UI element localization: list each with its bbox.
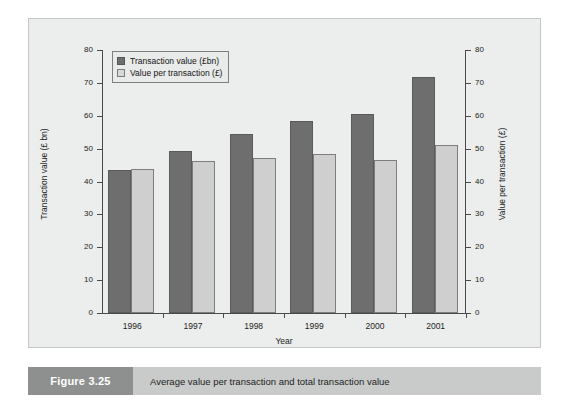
chart-panel: 01020304050607080 01020304050607080 1996…: [28, 18, 541, 348]
figure-caption-bar: Figure 3.25 Average value per transactio…: [28, 367, 541, 395]
y-axis-left-tick-label: 10: [69, 276, 93, 284]
y-axis-right-tick-label: 40: [475, 178, 499, 186]
y-axis-left-tick: [97, 313, 102, 314]
chart-legend: Transaction value (£bn) Value per transa…: [112, 51, 229, 83]
y-axis-left-tick-label: 50: [69, 145, 93, 153]
y-axis-left-tick-label: 60: [69, 112, 93, 120]
y-axis-right-tick-label: 60: [475, 112, 499, 120]
y-axis-right-tick: [466, 116, 471, 117]
y-axis-left-tick: [97, 149, 102, 150]
y-axis-right-tick-label: 10: [475, 276, 499, 284]
bar-value-per-transaction: [192, 161, 215, 313]
legend-label-transaction-value: Transaction value (£bn): [130, 56, 219, 66]
y-axis-right-tick: [466, 214, 471, 215]
bar-transaction-value: [412, 77, 435, 313]
y-axis-left-tick: [97, 116, 102, 117]
y-axis-right-tick: [466, 50, 471, 51]
y-axis-left-tick: [97, 214, 102, 215]
bar-transaction-value: [169, 151, 192, 313]
x-axis-tick: [466, 313, 467, 318]
bar-transaction-value: [230, 134, 253, 313]
y-axis-right-tick: [466, 280, 471, 281]
x-axis-tick: [284, 313, 285, 318]
x-axis-tick-label: 2001: [406, 321, 466, 331]
bar-transaction-value: [351, 114, 374, 313]
x-axis-tick-label: 1996: [102, 321, 162, 331]
plot-area: 01020304050607080 01020304050607080 1996…: [29, 19, 540, 347]
bar-value-per-transaction: [435, 145, 458, 313]
bar-transaction-value: [108, 170, 131, 313]
bar-value-per-transaction: [131, 169, 154, 313]
legend-swatch-light-icon: [117, 69, 125, 77]
y-axis-left-tick: [97, 50, 102, 51]
y-axis-right-title: Value per transaction (£): [497, 79, 507, 269]
figure-number: Figure 3.25: [28, 367, 133, 395]
y-axis-left-line: [102, 50, 103, 313]
y-axis-right-tick: [466, 182, 471, 183]
legend-swatch-dark-icon: [117, 57, 125, 65]
y-axis-right-tick-label: 0: [475, 309, 499, 317]
y-axis-left-tick: [97, 280, 102, 281]
y-axis-right-tick-label: 20: [475, 243, 499, 251]
y-axis-right-tick: [466, 247, 471, 248]
y-axis-left-tick-label: 70: [69, 79, 93, 87]
y-axis-left-tick-label: 40: [69, 178, 93, 186]
x-axis-tick: [223, 313, 224, 318]
y-axis-right-tick-label: 70: [475, 79, 499, 87]
y-axis-left-tick: [97, 247, 102, 248]
bar-value-per-transaction: [374, 160, 397, 313]
figure-container: 01020304050607080 01020304050607080 1996…: [0, 0, 569, 420]
bar-value-per-transaction: [253, 158, 276, 313]
y-axis-right-tick: [466, 149, 471, 150]
x-axis-tick-label: 1999: [284, 321, 344, 331]
y-axis-left-tick: [97, 182, 102, 183]
y-axis-left-tick-label: 0: [69, 309, 93, 317]
x-axis-tick-label: 1997: [163, 321, 223, 331]
legend-item-transaction-value: Transaction value (£bn): [117, 55, 222, 67]
y-axis-left-tick-label: 80: [69, 46, 93, 54]
y-axis-left-tick-label: 30: [69, 210, 93, 218]
bar-transaction-value: [290, 121, 313, 313]
x-axis-title: Year: [102, 336, 466, 346]
x-axis-tick-label: 1998: [224, 321, 284, 331]
x-axis-tick: [345, 313, 346, 318]
y-axis-right-tick-label: 50: [475, 145, 499, 153]
y-axis-right-tick-label: 30: [475, 210, 499, 218]
x-axis-tick: [163, 313, 164, 318]
y-axis-right-tick: [466, 83, 471, 84]
figure-caption-text: Average value per transaction and total …: [133, 367, 541, 395]
y-axis-left-title: Transaction value (£ bn): [39, 79, 49, 269]
x-axis-tick-label: 2000: [345, 321, 405, 331]
y-axis-right-tick-label: 80: [475, 46, 499, 54]
bar-value-per-transaction: [313, 154, 336, 313]
legend-label-value-per-transaction: Value per transaction (£): [130, 68, 222, 78]
y-axis-left-tick: [97, 83, 102, 84]
y-axis-left-tick-label: 20: [69, 243, 93, 251]
x-axis-tick: [405, 313, 406, 318]
legend-item-value-per-transaction: Value per transaction (£): [117, 67, 222, 79]
